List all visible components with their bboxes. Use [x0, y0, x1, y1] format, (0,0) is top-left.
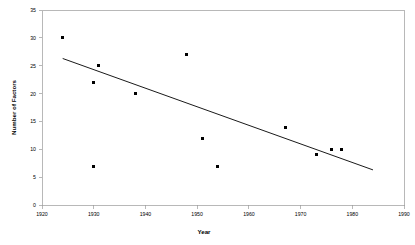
y-tick-label: 35 [30, 7, 36, 13]
data-point [61, 36, 64, 39]
data-point [134, 92, 137, 95]
x-axis-ticks [42, 205, 404, 209]
y-tick-label: 30 [30, 35, 36, 41]
data-point [92, 165, 95, 168]
x-tick-label: 1990 [398, 211, 410, 217]
data-point [284, 126, 287, 129]
plot-frame [42, 10, 404, 205]
x-tick-label: 1930 [88, 211, 100, 217]
y-tick-label: 15 [30, 118, 36, 124]
x-tick-label: 1950 [191, 211, 203, 217]
data-points-group [61, 36, 343, 167]
data-point [201, 137, 204, 140]
y-tick-label: 0 [33, 202, 36, 208]
x-tick-label: 1960 [243, 211, 255, 217]
y-tick-label: 10 [30, 146, 36, 152]
x-tick-label: 1920 [36, 211, 48, 217]
y-tick-labels: 0 5 10 15 20 25 30 35 [30, 7, 36, 208]
y-tick-label: 20 [30, 91, 36, 97]
x-tick-labels: 1920 1930 1940 1950 1960 1970 1980 1990 [36, 211, 410, 217]
data-point [92, 81, 95, 84]
data-point [216, 165, 219, 168]
x-axis-title: Year [197, 228, 211, 235]
data-point [315, 153, 318, 156]
chart-canvas: 0 5 10 15 20 25 30 35 1920 1930 1940 195… [0, 0, 415, 245]
x-tick-label: 1980 [347, 211, 359, 217]
trend-line [63, 58, 373, 169]
y-tick-label: 25 [30, 63, 36, 69]
data-point [97, 64, 100, 67]
y-tick-label: 5 [33, 174, 36, 180]
data-point [330, 148, 333, 151]
x-tick-label: 1970 [295, 211, 307, 217]
data-point [185, 53, 188, 56]
data-point [340, 148, 343, 151]
scatter-chart: 0 5 10 15 20 25 30 35 1920 1930 1940 195… [0, 0, 415, 245]
x-tick-label: 1940 [140, 211, 152, 217]
y-axis-ticks [39, 10, 43, 205]
y-axis-title: Number of Factors [10, 79, 17, 135]
